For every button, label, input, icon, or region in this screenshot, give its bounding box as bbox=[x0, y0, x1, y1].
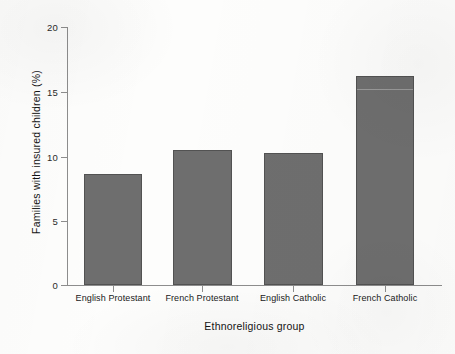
y-axis-tick-15 bbox=[61, 92, 68, 93]
x-axis-tick-0 bbox=[113, 286, 114, 292]
x-axis-label-french-protestant: French Protestant bbox=[165, 293, 238, 303]
x-axis-tick-1 bbox=[202, 286, 203, 292]
x-axis-label-english-protestant: English Protestant bbox=[76, 293, 151, 303]
bar-french-catholic bbox=[356, 76, 414, 285]
bar-english-catholic bbox=[264, 153, 323, 285]
y-axis-tick-20 bbox=[61, 27, 68, 28]
y-axis-tick-label-0: 0 bbox=[18, 280, 58, 291]
y-axis-tick-label-20: 20 bbox=[18, 22, 58, 33]
y-axis-tick-5 bbox=[61, 221, 68, 222]
bar-english-protestant bbox=[84, 174, 142, 285]
plot-area: 20 15 10 5 0 English Protestant French P… bbox=[0, 0, 455, 354]
bar-chart-figure: 20 15 10 5 0 English Protestant French P… bbox=[0, 0, 455, 354]
y-axis-title: Families with insured children (%) bbox=[30, 32, 42, 272]
x-axis-title: Ethnoreligious group bbox=[67, 320, 442, 332]
bar-french-protestant bbox=[173, 150, 232, 285]
x-axis-tick-3 bbox=[385, 286, 386, 292]
y-axis-tick-10 bbox=[61, 157, 68, 158]
x-axis-tick-2 bbox=[293, 286, 294, 292]
y-axis-tick-0 bbox=[61, 285, 68, 286]
scan-streak-artifact bbox=[357, 89, 413, 90]
x-axis-label-english-catholic: English Catholic bbox=[260, 293, 326, 303]
x-axis-label-french-catholic: French Catholic bbox=[353, 293, 418, 303]
